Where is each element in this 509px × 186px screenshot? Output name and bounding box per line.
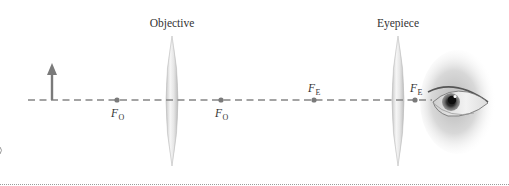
focal-point-fo-left: F O — [110, 97, 125, 121]
objective-label: Objective — [150, 17, 195, 30]
edge-fragment — [0, 147, 2, 154]
fo-right-subscript: O — [223, 113, 229, 122]
fo-left-subscript: O — [119, 113, 125, 122]
object-arrow — [47, 63, 57, 100]
eyepiece-label: Eyepiece — [377, 17, 419, 30]
objective-lens — [166, 36, 178, 166]
eyepiece-lens — [392, 36, 404, 166]
microscope-diagram: Objective Eyepiece F O F O F E — [0, 0, 509, 186]
fe-right-subscript: E — [418, 88, 423, 97]
focal-point-fo-right: F O — [214, 97, 229, 121]
fe-left-subscript: E — [316, 88, 321, 97]
eye-illustration — [420, 50, 496, 154]
